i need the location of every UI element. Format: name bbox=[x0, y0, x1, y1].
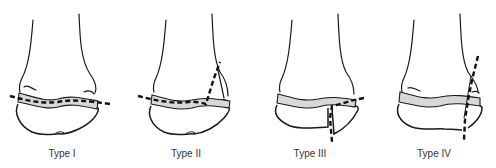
panel-label: Type III bbox=[248, 148, 372, 159]
epiphysis-outline bbox=[398, 104, 462, 130]
panel-type-2: Type II bbox=[124, 0, 248, 168]
bone-diagram-type-1 bbox=[0, 0, 124, 145]
epiphysis-outline bbox=[17, 104, 99, 135]
metaphysis-outline bbox=[153, 20, 166, 92]
growth-plate bbox=[277, 94, 356, 108]
panel-type-3: Type III bbox=[248, 0, 372, 168]
metaphysis-outline bbox=[19, 20, 33, 92]
panel-label: Type IV bbox=[372, 148, 496, 159]
fracture-line bbox=[138, 62, 220, 104]
panel-type-4: Type IV bbox=[372, 0, 496, 168]
panel-type-1: Type I bbox=[0, 0, 124, 168]
panel-label: Type I bbox=[0, 148, 124, 159]
metaphysis-outline bbox=[279, 20, 292, 92]
epiphysis-outline-right bbox=[332, 106, 358, 134]
bone-diagram-type-4 bbox=[372, 0, 496, 145]
epiphysis-outline-left bbox=[276, 105, 328, 128]
metaphysis-outline bbox=[401, 20, 414, 92]
epiphysis-outline bbox=[150, 106, 230, 135]
panel-label: Type II bbox=[124, 148, 248, 159]
bone-diagram-type-2 bbox=[124, 0, 248, 145]
bone-diagram-type-3 bbox=[248, 0, 372, 145]
